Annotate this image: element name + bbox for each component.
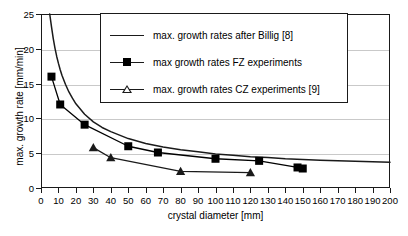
x-tick-label: 0 xyxy=(38,195,43,206)
x-tick xyxy=(198,188,199,193)
x-tick-label: 130 xyxy=(260,195,276,206)
y-tick-label: 15 xyxy=(23,78,34,89)
legend-label: max. growth rates CZ experiments [9] xyxy=(153,84,320,95)
x-tick-label: 120 xyxy=(242,195,258,206)
x-tick-label: 170 xyxy=(330,195,346,206)
x-tick xyxy=(181,188,182,193)
x-tick xyxy=(146,188,147,193)
data-point-square xyxy=(299,165,307,173)
x-tick-label: 110 xyxy=(225,195,240,206)
y-tick xyxy=(36,84,41,85)
x-tick-label: 40 xyxy=(106,195,117,206)
y-tick-label: 5 xyxy=(29,148,34,159)
x-tick-label: 70 xyxy=(158,195,169,206)
data-point-triangle xyxy=(89,143,98,151)
x-axis-title: crystal diameter [mm] xyxy=(41,210,390,221)
x-tick xyxy=(303,188,304,193)
x-tick xyxy=(268,188,269,193)
x-tick-label: 160 xyxy=(312,195,328,206)
y-tick xyxy=(36,49,41,50)
y-tick xyxy=(36,14,41,15)
chart-figure: 0510152025 max. growth rate [mm/min] 010… xyxy=(0,0,408,236)
legend-item-billig: max. growth rates after Billig [8] xyxy=(101,20,347,50)
y-tick-label: 10 xyxy=(23,113,34,124)
x-tick-label: 60 xyxy=(140,195,151,206)
line-icon xyxy=(101,28,153,42)
x-tick-label: 200 xyxy=(382,195,398,206)
x-tick-label: 20 xyxy=(71,195,82,206)
x-tick xyxy=(233,188,234,193)
y-tick-label: 0 xyxy=(29,183,34,194)
data-point-square xyxy=(81,121,89,129)
x-tick xyxy=(355,188,356,193)
x-tick xyxy=(163,188,164,193)
x-tick-label: 10 xyxy=(53,195,64,206)
x-tick xyxy=(320,188,321,193)
line-triangle-icon xyxy=(101,82,153,96)
x-tick-label: 80 xyxy=(175,195,186,206)
x-tick xyxy=(250,188,251,193)
x-tick-label: 140 xyxy=(277,195,293,206)
x-tick xyxy=(390,188,391,193)
x-tick xyxy=(128,188,129,193)
x-tick xyxy=(41,188,42,193)
y-axis-title: max. growth rate [mm/min] xyxy=(14,32,25,182)
data-point-square xyxy=(124,142,132,150)
data-point-square xyxy=(255,157,263,165)
x-tick-label: 100 xyxy=(208,195,224,206)
x-tick-label: 90 xyxy=(193,195,204,206)
x-tick xyxy=(338,188,339,193)
data-point-square xyxy=(56,100,64,108)
x-tick-label: 150 xyxy=(295,195,311,206)
y-tick xyxy=(36,153,41,154)
x-tick xyxy=(111,188,112,193)
data-point-square xyxy=(212,155,220,163)
series-line xyxy=(93,148,250,173)
y-tick-label: 25 xyxy=(23,9,34,20)
data-point-square xyxy=(154,149,162,157)
data-point-square xyxy=(47,73,55,81)
data-point-triangle xyxy=(106,153,115,161)
x-tick xyxy=(216,188,217,193)
x-tick xyxy=(285,188,286,193)
line-square-icon xyxy=(101,55,153,69)
x-tick-label: 30 xyxy=(88,195,99,206)
x-tick xyxy=(93,188,94,193)
legend-label: max growth rates FZ experiments xyxy=(153,57,302,68)
x-tick-label: 190 xyxy=(365,195,381,206)
x-tick-label: 180 xyxy=(347,195,363,206)
y-tick-label: 20 xyxy=(23,43,34,54)
chart-legend: max. growth rates after Billig [8] max g… xyxy=(100,13,348,103)
x-tick xyxy=(58,188,59,193)
x-tick-label: 50 xyxy=(123,195,134,206)
x-tick xyxy=(76,188,77,193)
legend-item-cz: max. growth rates CZ experiments [9] xyxy=(101,74,347,104)
x-tick xyxy=(373,188,374,193)
y-tick xyxy=(36,118,41,119)
legend-item-fz: max growth rates FZ experiments xyxy=(101,47,347,77)
legend-label: max. growth rates after Billig [8] xyxy=(153,30,293,41)
